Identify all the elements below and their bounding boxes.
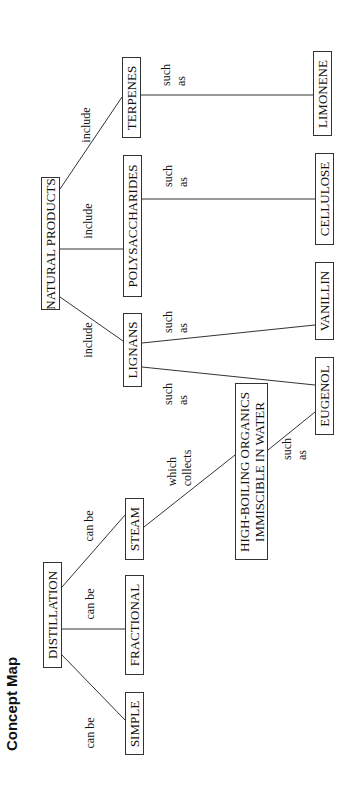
link-label-lignans-vanillin: such as <box>161 311 191 333</box>
node-label: LIGNANS <box>126 321 140 378</box>
node-distillation: DISTILLATION <box>43 562 62 668</box>
link-label-np-terpenes: include <box>79 107 94 142</box>
link-label-dist-simple: can be <box>83 718 98 749</box>
node-cellulose: CELLULOSE <box>315 153 334 245</box>
node-polysaccharides: POLYSACCHARIDES <box>123 155 142 297</box>
link-label-steam-highboiling: which collects <box>165 450 195 487</box>
node-vanillin: VANILLIN <box>315 262 334 340</box>
link-label-highboiling-eugenol: such as <box>280 438 310 460</box>
node-limonene: LIMONENE <box>313 51 332 136</box>
concept-map: Concept Map DISTILLATION SIMPLE FRACTION… <box>0 0 357 796</box>
node-label: VANILLIN <box>318 271 332 331</box>
node-natural-products: NATURAL PRODUCTS <box>41 177 60 310</box>
node-simple: SIMPLE <box>125 692 144 755</box>
page-title: Concept Map <box>2 654 22 754</box>
node-label: STEAM <box>128 507 142 551</box>
node-steam: STEAM <box>125 498 144 560</box>
node-terpenes: TERPENES <box>122 57 141 138</box>
node-label: FRACTIONAL <box>128 584 142 666</box>
node-fractional: FRACTIONAL <box>125 575 144 675</box>
node-high-boiling-organics: HIGH-BOILING ORGANICS IMMISCIBLE IN WATE… <box>235 383 268 560</box>
link-label-np-lignans: include <box>81 322 96 357</box>
node-label: TERPENES <box>125 65 139 129</box>
link-label-terpenes-limonene: such as <box>159 64 189 86</box>
node-label: EUGENOL <box>318 365 332 426</box>
node-label: SIMPLE <box>128 700 142 746</box>
link-label-dist-steam: can be <box>82 511 97 542</box>
node-label: DISTILLATION <box>46 571 60 659</box>
node-label: HIGH-BOILING ORGANICS IMMISCIBLE IN WATE… <box>237 392 267 552</box>
link-label-poly-cellulose: such as <box>161 165 191 187</box>
link-label-dist-fractional: can be <box>83 589 98 620</box>
node-label: LIMONENE <box>316 60 330 128</box>
node-label-line1: HIGH-BOILING ORGANICS <box>237 392 252 552</box>
node-label: POLYSACCHARIDES <box>126 165 140 288</box>
link-label-np-polysaccharides: include <box>81 203 96 238</box>
node-eugenol: EUGENOL <box>315 357 334 435</box>
node-label-line2: IMMISCIBLE IN WATER <box>252 402 267 542</box>
node-label: CELLULOSE <box>318 162 332 236</box>
node-label: NATURAL PRODUCTS <box>44 178 58 309</box>
edge-distillation-simple <box>62 655 125 720</box>
node-lignans: LIGNANS <box>123 313 142 387</box>
link-label-lignans-eugenol: such as <box>161 383 191 405</box>
